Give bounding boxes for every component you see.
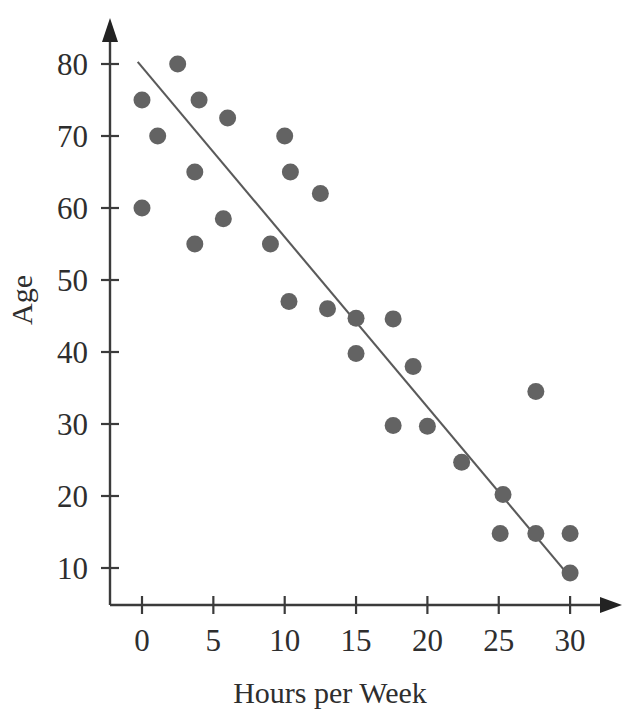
data-point xyxy=(219,110,236,127)
data-point xyxy=(385,417,402,434)
data-point xyxy=(319,300,336,317)
data-point xyxy=(186,164,203,181)
data-point xyxy=(348,345,365,362)
y-axis-title: Age xyxy=(5,275,38,325)
data-point xyxy=(280,293,297,310)
data-points xyxy=(134,56,579,582)
data-point xyxy=(215,210,232,227)
data-point xyxy=(282,164,299,181)
chart-page: 1020304050607080 051015202530 Hours per … xyxy=(0,0,627,714)
data-point xyxy=(562,525,579,542)
x-tick-label: 20 xyxy=(412,623,443,658)
data-point xyxy=(169,56,186,73)
data-point xyxy=(149,128,166,145)
y-tick-label: 70 xyxy=(57,119,88,154)
x-tick-label: 10 xyxy=(269,623,300,658)
y-tick-label: 10 xyxy=(57,551,88,586)
data-point xyxy=(348,310,365,327)
y-axis-arrow-icon xyxy=(102,18,118,42)
y-tick-label: 80 xyxy=(57,47,88,82)
data-point xyxy=(527,383,544,400)
x-tick-label: 30 xyxy=(555,623,586,658)
data-point xyxy=(495,486,512,503)
x-axis-title: Hours per Week xyxy=(233,676,427,709)
data-point xyxy=(385,310,402,327)
data-point xyxy=(527,525,544,542)
data-point xyxy=(276,128,293,145)
y-tick-label: 40 xyxy=(57,335,88,370)
scatter-plot: 1020304050607080 051015202530 Hours per … xyxy=(0,0,627,714)
data-point xyxy=(312,185,329,202)
data-point xyxy=(453,454,470,471)
data-point xyxy=(419,418,436,435)
y-tick-label: 20 xyxy=(57,479,88,514)
y-tick-label: 60 xyxy=(57,191,88,226)
data-point xyxy=(134,200,151,217)
data-point xyxy=(492,525,509,542)
data-point xyxy=(186,236,203,253)
data-point xyxy=(262,236,279,253)
x-tick-label: 15 xyxy=(341,623,372,658)
y-tick-label: 50 xyxy=(57,263,88,298)
y-tick-label: 30 xyxy=(57,407,88,442)
data-point xyxy=(562,565,579,582)
x-tick-label: 25 xyxy=(483,623,514,658)
data-point xyxy=(405,358,422,375)
x-tick-label: 0 xyxy=(134,623,150,658)
x-axis-arrow-icon xyxy=(600,597,622,613)
x-tick-label: 5 xyxy=(206,623,222,658)
data-point xyxy=(191,92,208,109)
data-point xyxy=(134,92,151,109)
